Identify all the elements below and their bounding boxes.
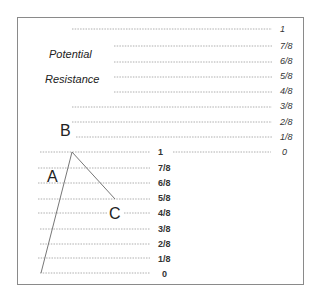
point-label-b: B (60, 122, 71, 139)
retracement-diagram: 1 7/8 6/8 5/8 4/8 3/8 2/8 1/8 0 Potentia… (0, 0, 321, 296)
point-label-a: A (47, 168, 58, 185)
lower-label: 6/8 (158, 178, 171, 188)
upper-label: 7/8 (280, 41, 293, 51)
lower-label: 2/8 (158, 239, 171, 249)
caption-resistance: Resistance (45, 73, 99, 85)
lower-label: 1/8 (158, 254, 171, 264)
upper-scale-lines (72, 29, 272, 152)
upper-label: 4/8 (280, 86, 293, 96)
upper-label: 0 (282, 147, 287, 157)
lower-label: 7/8 (158, 163, 171, 173)
upper-scale-labels: 1 7/8 6/8 5/8 4/8 3/8 2/8 1/8 0 (279, 24, 293, 157)
lower-scale-labels: 1 7/8 6/8 5/8 4/8 3/8 2/8 1/8 0 (158, 147, 171, 279)
upper-label: 2/8 (279, 117, 293, 127)
lower-label: 0 (162, 269, 167, 279)
upper-label: 5/8 (280, 71, 293, 81)
lower-label: 4/8 (158, 208, 171, 218)
upper-label: 1 (280, 24, 285, 34)
upper-label: 6/8 (280, 56, 293, 66)
upper-label: 1/8 (280, 132, 293, 142)
lower-label: 3/8 (158, 224, 171, 234)
point-label-c: C (109, 205, 121, 222)
lower-label: 5/8 (158, 193, 171, 203)
caption-potential: Potential (49, 48, 92, 60)
lower-label: 1 (158, 147, 163, 157)
upper-label: 3/8 (280, 101, 293, 111)
